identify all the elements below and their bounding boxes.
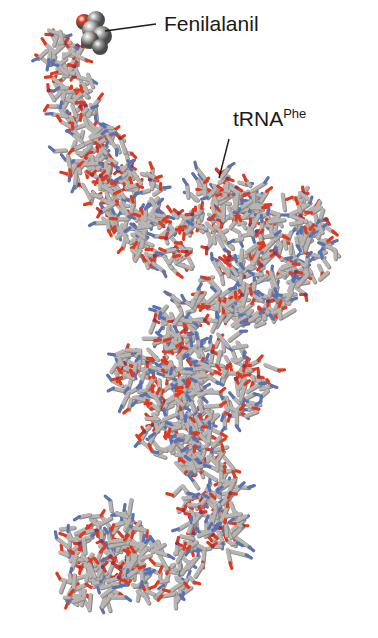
trna-text: tRNA	[233, 107, 283, 130]
trna-figure: Fenilalanil tRNAPhe	[0, 0, 378, 638]
trna-stick-model-icon	[0, 0, 378, 638]
fenilalanil-text: Fenilalanil	[164, 12, 259, 35]
trna-phe-label: tRNAPhe	[233, 108, 306, 129]
fenilalanil-label: Fenilalanil	[164, 13, 259, 34]
phe-superscript: Phe	[283, 106, 306, 121]
